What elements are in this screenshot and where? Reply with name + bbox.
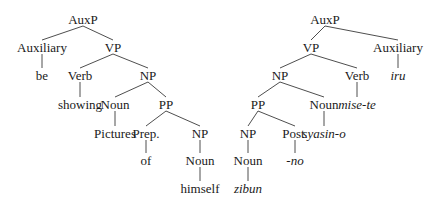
tree-edge xyxy=(148,82,166,97)
leaf-syasin-o: syasin-o xyxy=(302,127,345,140)
node-pp-japanese: PP xyxy=(251,98,265,111)
leaf-be: be xyxy=(36,69,48,82)
node-vp-japanese: VP xyxy=(303,41,320,54)
node-np-inner-japanese: NP xyxy=(240,127,257,140)
tree-edge xyxy=(325,26,398,40)
tree-edge xyxy=(248,111,258,126)
tree-edge xyxy=(311,54,357,68)
node-noun-japanese: Noun xyxy=(310,98,339,111)
node-auxiliary-japanese: Auxiliary xyxy=(373,41,423,54)
node-vp-english: VP xyxy=(105,41,122,54)
node-verb-japanese: Verb xyxy=(345,69,370,82)
leaf-of: of xyxy=(141,154,152,167)
node-noun-english: Noun xyxy=(101,98,130,111)
leaf-showing: showing xyxy=(58,98,102,111)
syntax-tree-diagram: AuxP Auxiliary VP be Verb NP showing Nou… xyxy=(0,0,436,206)
tree-edge xyxy=(113,54,148,68)
node-auxiliary-english: Auxiliary xyxy=(17,41,67,54)
tree-edge xyxy=(146,111,166,126)
node-pp-english: PP xyxy=(159,98,173,111)
leaf-himself: himself xyxy=(181,182,220,195)
node-np-inner-english: NP xyxy=(192,127,209,140)
tree-edge xyxy=(311,26,325,40)
node-auxp-japanese: AuxP xyxy=(310,13,340,26)
node-auxp-english: AuxP xyxy=(68,13,98,26)
leaf-pictures: Pictures xyxy=(94,127,136,140)
node-np-english: NP xyxy=(140,69,157,82)
leaf-no: -no xyxy=(286,154,303,167)
tree-edge xyxy=(115,82,148,97)
tree-edge xyxy=(42,26,83,40)
tree-edge xyxy=(258,82,280,97)
node-noun-inner-japanese: Noun xyxy=(234,154,263,167)
tree-edge xyxy=(280,82,324,97)
tree-edge xyxy=(80,54,113,68)
leaf-iru: iru xyxy=(390,69,405,82)
tree-edge xyxy=(258,111,295,126)
node-np-japanese: NP xyxy=(272,69,289,82)
leaf-zibun: zibun xyxy=(234,182,262,195)
tree-edge xyxy=(280,54,311,68)
tree-edge xyxy=(83,26,113,40)
node-noun-inner-english: Noun xyxy=(186,154,215,167)
node-verb-english: Verb xyxy=(68,69,93,82)
leaf-mise-te: mise-te xyxy=(338,98,376,111)
node-prep-english: Prep. xyxy=(132,127,159,140)
tree-edge xyxy=(166,111,200,126)
